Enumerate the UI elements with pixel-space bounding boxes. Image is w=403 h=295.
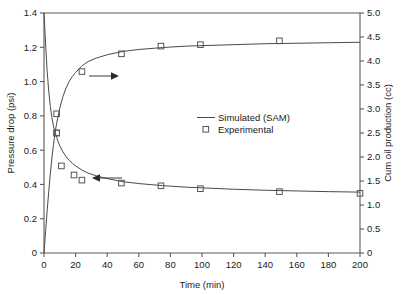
data-point-marker: [79, 177, 85, 183]
x-axis-title: Time (min): [179, 279, 224, 290]
data-point-marker: [198, 42, 204, 48]
legend-label-experimental: Experimental: [218, 124, 273, 135]
left-tick-label: 0.6: [24, 145, 37, 156]
x-tick-label: 100: [194, 259, 210, 270]
right-axis-ticks: 00.51.01.52.02.53.03.54.04.55.0: [360, 7, 380, 258]
right-tick-label: 0.5: [367, 223, 380, 234]
simulated-curves: [44, 13, 360, 253]
right-tick-label: 4.0: [367, 55, 380, 66]
x-tick-label: 40: [102, 259, 113, 270]
data-point-marker: [79, 69, 85, 75]
x-axis-ticks: 020406080100120140160180200: [41, 253, 368, 270]
legend-label-simulated: Simulated (SAM): [218, 112, 290, 123]
right-tick-label: 2.5: [367, 127, 380, 138]
x-tick-label: 160: [289, 259, 305, 270]
chart-legend: Simulated (SAM) Experimental: [197, 112, 290, 135]
y2-axis-title: Cum oil production (cc): [382, 84, 393, 182]
left-tick-label: 1.0: [24, 76, 37, 87]
y-axis-title: Pressure drop (psi): [5, 93, 16, 174]
left-tick-label: 1.2: [24, 42, 37, 53]
pressure-drop-cum-oil-chart: 00.20.40.60.81.01.21.4 00.51.01.52.02.53…: [0, 0, 403, 295]
legend-square-swatch: [203, 127, 209, 133]
x-tick-label: 140: [257, 259, 273, 270]
data-point-marker: [277, 189, 283, 195]
x-tick-label: 180: [320, 259, 336, 270]
arrow-to-right-axis-icon: [89, 72, 119, 80]
plot-frame: [44, 13, 360, 253]
left-axis-ticks: 00.20.40.60.81.01.21.4: [24, 7, 44, 258]
data-point-marker: [59, 163, 65, 169]
right-tick-label: 1.5: [367, 175, 380, 186]
left-tick-label: 0: [32, 247, 37, 258]
chart-figure: 00.20.40.60.81.01.21.4 00.51.01.52.02.53…: [0, 0, 403, 295]
x-tick-label: 120: [226, 259, 242, 270]
series-line: [44, 42, 360, 253]
x-tick-label: 60: [134, 259, 145, 270]
data-point-marker: [277, 38, 283, 44]
right-tick-label: 2.0: [367, 151, 380, 162]
x-tick-label: 80: [165, 259, 176, 270]
data-point-marker: [71, 172, 77, 178]
x-tick-label: 20: [70, 259, 81, 270]
series-line: [44, 13, 360, 192]
right-tick-label: 5.0: [367, 7, 380, 18]
left-tick-label: 0.8: [24, 110, 37, 121]
right-tick-label: 0: [367, 247, 372, 258]
right-tick-label: 3.5: [367, 79, 380, 90]
x-tick-label: 200: [352, 259, 368, 270]
x-tick-label: 0: [41, 259, 46, 270]
right-tick-label: 4.5: [367, 31, 380, 42]
left-tick-label: 0.4: [24, 179, 37, 190]
data-point-marker: [198, 186, 204, 192]
right-tick-label: 1.0: [367, 199, 380, 210]
left-tick-label: 0.2: [24, 213, 37, 224]
right-tick-label: 3.0: [367, 103, 380, 114]
left-tick-label: 1.4: [24, 7, 37, 18]
